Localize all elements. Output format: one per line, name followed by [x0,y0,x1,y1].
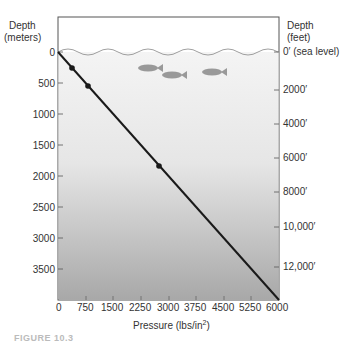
data-marker [85,83,91,89]
x-tick: 4500 [212,302,234,313]
left-axis-unit: (meters) [4,32,41,43]
x-tick: 750 [77,302,94,313]
y-tick-right: 2000′ [283,84,307,95]
x-tick: 3750 [184,302,206,313]
y-tick-left: 500 [38,78,55,89]
y-tick-right: 8000′ [283,186,307,197]
x-tick: 2250 [129,302,151,313]
y-tick-right: 12,000′ [283,261,315,272]
x-tick: 0 [56,302,62,313]
y-tick-left: 2500 [33,202,55,213]
y-tick-left: 2000 [33,171,55,182]
y-tick-right: 4000′ [283,118,307,129]
data-marker [156,163,162,169]
figure-caption: FIGURE 10.3 [14,333,74,343]
y-tick-left: 1500 [33,140,55,151]
data-marker [69,65,75,71]
x-tick: 6000 [266,302,288,313]
y-tick-right: 6000′ [283,152,307,163]
y-tick-right: 0′ (sea level) [283,46,339,57]
x-tick: 3000 [157,302,179,313]
y-tick-left: 1000 [33,109,55,120]
y-tick-right: 10,000′ [283,221,315,232]
right-axis-title: Depth [287,20,314,31]
y-tick-left: 0 [49,47,55,58]
x-axis-title: Pressure (lbs/in2) [133,317,210,331]
left-axis-title: Depth [9,20,36,31]
right-axis-unit: (feet) [287,32,310,43]
y-tick-left: 3500 [33,264,55,275]
y-tick-left: 3000 [33,233,55,244]
x-tick: 1500 [101,302,123,313]
x-tick: 5250 [239,302,261,313]
